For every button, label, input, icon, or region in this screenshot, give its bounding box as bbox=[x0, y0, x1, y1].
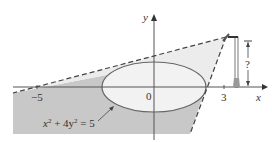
tick-label-3: 3 bbox=[221, 91, 227, 103]
ellipse-lamp-diagram: ? y x 0 −5 3 x2 + 4y2 = 5 bbox=[0, 0, 272, 142]
down-arrow-icon bbox=[246, 81, 250, 86]
y-axis-label: y bbox=[142, 11, 148, 23]
x-axis-arrow-icon bbox=[262, 84, 268, 90]
tick-label-neg5: −5 bbox=[31, 91, 43, 103]
y-axis-arrow-icon bbox=[151, 14, 157, 21]
origin-label: 0 bbox=[146, 90, 152, 102]
x-axis-label: x bbox=[255, 91, 261, 103]
height-question-label: ? bbox=[245, 58, 250, 70]
up-arrow-icon bbox=[246, 42, 250, 47]
lamp-base bbox=[233, 78, 240, 87]
